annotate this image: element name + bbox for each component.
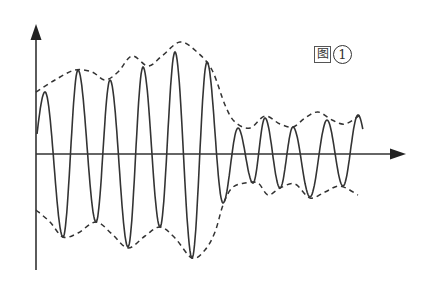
figure-label: 图 1 <box>314 45 352 64</box>
figure-label-number: 1 <box>333 45 352 64</box>
waveform-figure <box>0 0 426 284</box>
figure-label-char: 图 <box>314 46 331 63</box>
x-axis-arrow-icon <box>390 149 406 160</box>
y-axis-arrow-icon <box>31 24 42 40</box>
